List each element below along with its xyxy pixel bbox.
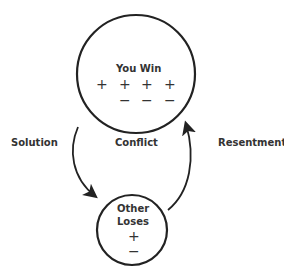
- plus-sign: +: [141, 77, 153, 91]
- plus-sign: +: [96, 77, 108, 91]
- you-win-circle: [77, 15, 195, 133]
- other-label: Other: [117, 203, 149, 214]
- solution-arrow: [73, 127, 95, 196]
- solution-label: Solution: [11, 137, 58, 148]
- you-win-label: You Win: [116, 63, 161, 74]
- resentment-label: Resentment: [218, 137, 284, 148]
- loses-label: Loses: [117, 216, 149, 227]
- minus-sign: −: [164, 93, 176, 107]
- plus-sign: +: [164, 77, 176, 91]
- minus-sign: −: [119, 93, 131, 107]
- minus-sign: −: [128, 244, 140, 258]
- plus-sign: +: [128, 229, 140, 243]
- plus-sign: +: [119, 77, 131, 91]
- conflict-label: Conflict: [115, 137, 158, 148]
- resentment-arrow: [168, 124, 191, 210]
- minus-sign: −: [141, 93, 153, 107]
